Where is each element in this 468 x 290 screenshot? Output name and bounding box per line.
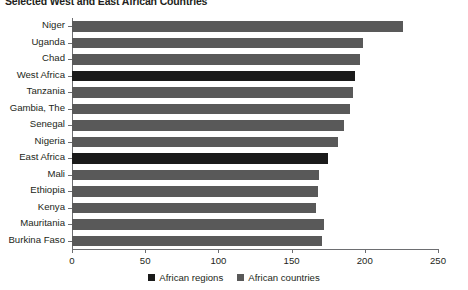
bar-row: Uganda bbox=[72, 35, 438, 52]
x-axis-line bbox=[72, 249, 439, 250]
bar-country bbox=[72, 120, 344, 131]
category-label: Ethiopia bbox=[30, 182, 65, 199]
legend-item[interactable]: African countries bbox=[237, 272, 319, 283]
bar-country bbox=[72, 38, 363, 49]
bar-row: Nigeria bbox=[72, 134, 438, 151]
x-axis-tick-label: 100 bbox=[210, 255, 226, 266]
bar-country bbox=[72, 203, 316, 214]
category-label: Gambia, The bbox=[10, 100, 65, 117]
bar-row: Gambia, The bbox=[72, 101, 438, 118]
x-axis-tick bbox=[438, 249, 439, 253]
bar-row: East Africa bbox=[72, 150, 438, 167]
category-label: Mali bbox=[47, 166, 65, 183]
bar-country bbox=[72, 186, 318, 197]
bar-country bbox=[72, 137, 338, 148]
x-axis-tick-label: 150 bbox=[284, 255, 300, 266]
bar-country bbox=[72, 236, 322, 247]
bar-row: Burkina Faso bbox=[72, 233, 438, 250]
category-label: Niger bbox=[42, 17, 65, 34]
bar-row: Mali bbox=[72, 167, 438, 184]
category-label: Chad bbox=[42, 50, 65, 67]
bar-country bbox=[72, 219, 324, 230]
category-label: Senegal bbox=[30, 116, 65, 133]
chart-title: Selected West and East African Countries bbox=[5, 0, 207, 7]
bar-row: Kenya bbox=[72, 200, 438, 217]
category-label: Kenya bbox=[38, 199, 65, 216]
category-label: Mauritania bbox=[20, 215, 65, 232]
bar-country bbox=[72, 170, 319, 181]
bar-region bbox=[72, 71, 355, 82]
category-label: Burkina Faso bbox=[8, 232, 65, 249]
x-axis-tick-label: 50 bbox=[140, 255, 151, 266]
bar-row: Tanzania bbox=[72, 84, 438, 101]
x-axis-tick bbox=[365, 249, 366, 253]
bar-country bbox=[72, 54, 360, 65]
bar-country bbox=[72, 21, 403, 32]
bar-region bbox=[72, 153, 328, 164]
x-axis-tick bbox=[72, 249, 73, 253]
plot-area: NigerUgandaChadWest AfricaTanzaniaGambia… bbox=[72, 18, 438, 249]
bar-row: Niger bbox=[72, 18, 438, 35]
x-axis-tick-label: 250 bbox=[430, 255, 446, 266]
category-label: East Africa bbox=[19, 149, 65, 166]
legend-item[interactable]: African regions bbox=[148, 272, 223, 283]
bar-row: Ethiopia bbox=[72, 183, 438, 200]
legend-swatch-icon bbox=[237, 274, 244, 281]
bar-country bbox=[72, 104, 350, 115]
x-axis-tick bbox=[292, 249, 293, 253]
chart-legend: African regionsAfrican countries bbox=[0, 272, 468, 283]
x-axis-tick-label: 0 bbox=[69, 255, 74, 266]
bar-chart: Selected West and East African Countries… bbox=[0, 0, 468, 290]
category-label: Uganda bbox=[31, 34, 65, 51]
legend-label: African regions bbox=[159, 272, 223, 283]
x-axis-tick bbox=[218, 249, 219, 253]
category-label: West Africa bbox=[17, 67, 65, 84]
bar-row: West Africa bbox=[72, 68, 438, 85]
bar-row: Mauritania bbox=[72, 216, 438, 233]
x-axis-tick-label: 200 bbox=[357, 255, 373, 266]
bar-row: Chad bbox=[72, 51, 438, 68]
x-axis-tick bbox=[145, 249, 146, 253]
bar-country bbox=[72, 87, 353, 98]
category-label: Tanzania bbox=[27, 83, 65, 100]
bar-row: Senegal bbox=[72, 117, 438, 134]
legend-label: African countries bbox=[248, 272, 319, 283]
legend-swatch-icon bbox=[148, 274, 155, 281]
category-label: Nigeria bbox=[35, 133, 65, 150]
